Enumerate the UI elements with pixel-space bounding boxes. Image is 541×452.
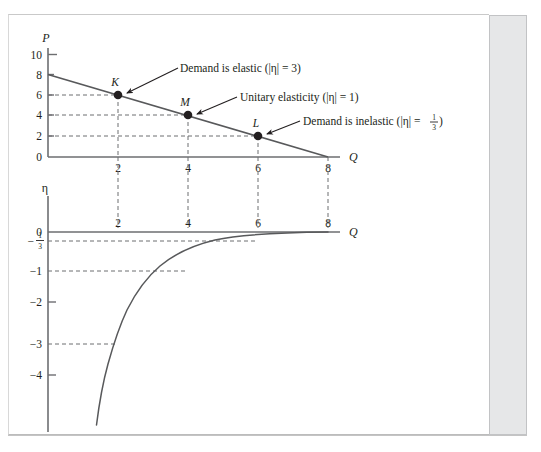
eta-axis-label: η [42, 181, 48, 195]
data-point-label-l: L [252, 117, 259, 129]
eta-fraction-numerator: 1 [38, 231, 42, 240]
elasticity-figure-svg: 10 8 6 4 2 0 P Q 2 4 6 8 K M L [0, 0, 541, 452]
data-point-k [114, 91, 123, 100]
annotation-unitary-middle: | = 1) [335, 91, 359, 104]
annotation-demand-inelastic: Demand is inelastic (|η| = 1 3 ) [303, 113, 443, 132]
p-tick-8: 8 [36, 69, 42, 81]
eta-fraction-denominator: 3 [38, 242, 42, 251]
eta-tick-minus4: −4 [30, 369, 42, 381]
elasticity-guide-lines [48, 241, 258, 344]
p-axis-label: P [41, 31, 50, 45]
panel-connectors [118, 157, 328, 228]
annotation-inelastic-middle: | = [409, 115, 421, 128]
leader-inelastic [267, 121, 300, 134]
annotation-inelastic-prefix: Demand is inelastic (| [303, 115, 403, 128]
top-q-axis-label: Q [349, 150, 358, 164]
data-point-m [184, 111, 193, 120]
demand-guide-lines [48, 95, 258, 156]
bottom-q-tick-2: 2 [115, 217, 121, 229]
data-point-label-m: M [179, 96, 191, 108]
fraction-one-third: 1 3 [430, 113, 438, 132]
fraction-denominator: 3 [432, 123, 436, 132]
svg-text:Demand is elastic (|η| = 3): Demand is elastic (|η| = 3) [180, 62, 301, 75]
p-tick-10: 10 [31, 49, 43, 61]
data-point-label-k: K [110, 76, 120, 88]
annotation-unitary-elasticity: Unitary elasticity (|η| = 1) [240, 91, 359, 104]
svg-text:Demand is inelastic (|η| =: Demand is inelastic (|η| = [303, 115, 420, 128]
p-tick-6: 6 [36, 89, 42, 101]
leader-unitary [197, 97, 237, 114]
annotation-elastic-middle: | = 3) [277, 62, 301, 75]
elasticity-panel: 0 − 1 3 −1 −2 −3 −4 η Q 2 4 6 8 [28, 181, 359, 432]
eta-tick-minus3: −3 [30, 338, 42, 350]
bottom-q-tick-8: 8 [325, 217, 331, 229]
p-tick-0: 0 [36, 151, 42, 163]
annotation-unitary-prefix: Unitary elasticity (| [240, 91, 329, 104]
eta-axis-ticks [48, 302, 56, 375]
eta-tick-minus-sign: − [28, 235, 35, 247]
p-tick-4: 4 [36, 109, 42, 121]
figure-root: 10 8 6 4 2 0 P Q 2 4 6 8 K M L [0, 0, 541, 452]
p-tick-2: 2 [36, 130, 42, 142]
elasticity-curve [97, 232, 329, 425]
bottom-q-tick-6: 6 [255, 217, 261, 229]
annotation-inelastic-suffix: ) [439, 115, 443, 128]
fraction-numerator: 1 [432, 113, 436, 122]
eta-tick-minus1: −1 [30, 265, 42, 277]
annotation-elastic-prefix: Demand is elastic (| [180, 62, 271, 75]
bottom-q-axis-label: Q [349, 225, 358, 239]
data-point-l [254, 132, 263, 141]
eta-tick-minus2: −2 [30, 296, 42, 308]
annotation-demand-elastic: Demand is elastic (|η| = 3) [180, 62, 301, 75]
leader-elastic [127, 68, 178, 93]
svg-text:Unitary elasticity (|η| = 1): Unitary elasticity (|η| = 1) [240, 91, 359, 104]
bottom-q-tick-4: 4 [185, 217, 191, 229]
